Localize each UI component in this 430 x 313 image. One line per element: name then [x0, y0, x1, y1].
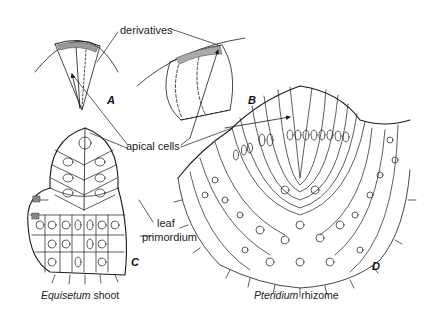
caption-pteridium-part: rhizome	[298, 289, 338, 301]
caption-pteridium-genus: Pteridium	[254, 289, 298, 301]
panel-label-c: C	[131, 257, 139, 268]
caption-equisetum-genus: Equisetum	[41, 289, 91, 301]
label-apical-cells: apical cells	[126, 141, 180, 152]
label-primordium: primordium	[142, 232, 197, 243]
label-derivatives: derivatives	[120, 25, 173, 36]
diagram-canvas	[0, 0, 430, 313]
panel-b-apical-cell-drawing	[137, 38, 245, 138]
caption-equisetum-shoot: Equisetum shoot	[41, 290, 119, 301]
caption-pteridium-rhizome: Pteridium rhizome	[254, 290, 339, 301]
label-leaf: leaf	[157, 218, 175, 229]
panel-label-b: B	[248, 95, 256, 106]
panel-a-apical-cell-drawing	[35, 40, 118, 110]
caption-equisetum-part: shoot	[91, 289, 120, 301]
panel-label-d: D	[372, 261, 380, 272]
panel-c-equisetum-shoot-drawing	[28, 128, 127, 284]
panel-label-a: A	[107, 95, 115, 106]
